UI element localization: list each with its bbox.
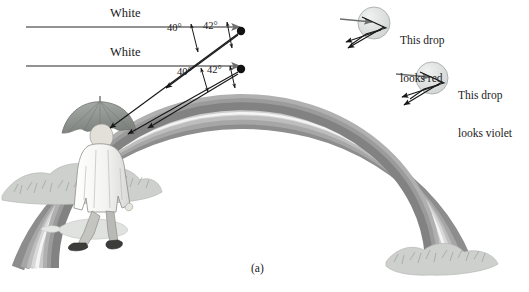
observer-shoe-left bbox=[68, 243, 88, 251]
callout-red-drop-line1: This drop bbox=[400, 34, 444, 47]
label-angle-upper-red: 42° bbox=[203, 20, 218, 32]
label-white-upper: White bbox=[110, 6, 141, 20]
callout-red-drop-line2: looks red bbox=[400, 72, 444, 85]
angle-bar-lower-red bbox=[230, 66, 235, 88]
label-angle-upper-violet: 40° bbox=[167, 22, 182, 34]
label-white-lower: White bbox=[110, 45, 141, 59]
angle-bar-upper-red bbox=[227, 22, 232, 48]
label-angle-lower-violet: 40° bbox=[177, 66, 192, 78]
callout-red-drop: This drop looks red bbox=[400, 8, 444, 111]
callout-violet-drop: This drop looks violet bbox=[458, 63, 512, 166]
ground-right bbox=[386, 243, 498, 275]
angle-bar-upper-violet bbox=[191, 24, 198, 52]
scatter-point-lower bbox=[237, 65, 245, 73]
figure-artwork bbox=[0, 0, 529, 292]
callout-violet-drop-line2: looks violet bbox=[458, 127, 512, 140]
raindrop-diagram-red bbox=[340, 7, 390, 48]
rainbow-figure: White White 40° 42° 40° 42° This drop lo… bbox=[0, 0, 529, 292]
callout-violet-drop-line1: This drop bbox=[458, 89, 512, 102]
figure-caption: (a) bbox=[251, 262, 264, 275]
label-angle-lower-red: 42° bbox=[207, 64, 222, 76]
observer-shoe-right bbox=[106, 240, 123, 249]
